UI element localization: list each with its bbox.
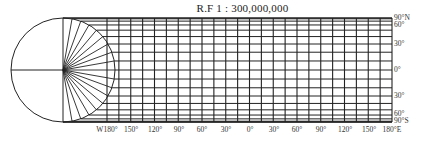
- longitude-label: 60°: [292, 126, 303, 134]
- latitude-label: 60°: [394, 21, 405, 29]
- longitude-label: 120°: [338, 126, 352, 134]
- latitude-label: 30°: [394, 40, 405, 48]
- projection-graphic: [0, 0, 429, 142]
- longitude-label: 150°: [362, 126, 376, 134]
- longitude-label: 90°: [174, 126, 185, 134]
- longitude-label: 60°: [197, 126, 208, 134]
- longitude-label: 0°: [247, 126, 254, 134]
- longitude-label: 90°: [316, 126, 327, 134]
- latitude-label: 30°: [394, 92, 405, 100]
- longitude-label: 30°: [269, 126, 280, 134]
- latitude-label: 0°: [394, 66, 401, 74]
- longitude-label: W180°: [96, 126, 117, 134]
- longitude-label: 150°: [124, 126, 138, 134]
- longitude-label: 180°E: [383, 126, 402, 134]
- latitude-label: 90°S: [394, 117, 409, 125]
- longitude-label: 120°: [148, 126, 162, 134]
- longitude-label: 30°: [221, 126, 232, 134]
- projection-diagram: R.F 1 : 300,000,000 90°N60°30°0°30°60°90…: [0, 0, 429, 142]
